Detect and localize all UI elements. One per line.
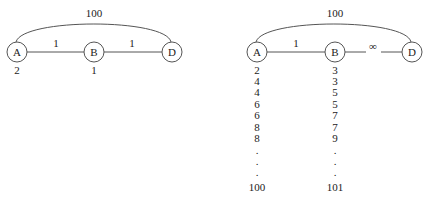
right-node-d-label: D (408, 46, 416, 58)
a-value-final: 100 (249, 181, 266, 193)
left-node-d-label: D (168, 46, 176, 58)
diagram-canvas: 100 1 1 A B D 2 1 100 1 ∞ A B D 2 4 4 (0, 0, 432, 203)
b-value: 7 (332, 109, 338, 121)
a-value: 8 (254, 132, 260, 144)
a-ellipsis-dot: . (256, 166, 259, 178)
left-node-a-value: 2 (14, 64, 20, 76)
b-value-final: 101 (327, 181, 344, 193)
a-value: 4 (254, 86, 260, 98)
right-arc-label: 100 (327, 7, 344, 19)
left-arc-edge-a-d (16, 24, 171, 42)
left-edge-b-d-label: 1 (129, 37, 135, 49)
left-node-b-label: B (90, 46, 97, 58)
b-value: 9 (332, 132, 338, 144)
right-node-b-label: B (331, 46, 338, 58)
right-node-a-values: 2 4 4 6 6 8 8 . . . 100 (249, 64, 266, 193)
left-node-b-value: 1 (91, 64, 97, 76)
right-node-b-values: 3 3 5 5 7 7 9 . . . 101 (327, 64, 344, 193)
left-node-a-label: A (13, 46, 21, 58)
right-graph: 100 1 ∞ A B D 2 4 4 6 6 8 8 . . . 100 3 … (247, 7, 422, 193)
right-edge-b-d-label: ∞ (369, 40, 377, 52)
left-arc-label: 100 (86, 7, 103, 19)
left-graph: 100 1 1 A B D 2 1 (7, 7, 182, 76)
right-node-a-label: A (253, 46, 261, 58)
b-value: 5 (332, 86, 338, 98)
b-ellipsis-dot: . (334, 166, 337, 178)
right-edge-a-b-label: 1 (293, 37, 299, 49)
right-arc-edge-a-d (256, 24, 411, 42)
left-edge-a-b-label: 1 (53, 37, 59, 49)
a-value: 6 (254, 109, 260, 121)
